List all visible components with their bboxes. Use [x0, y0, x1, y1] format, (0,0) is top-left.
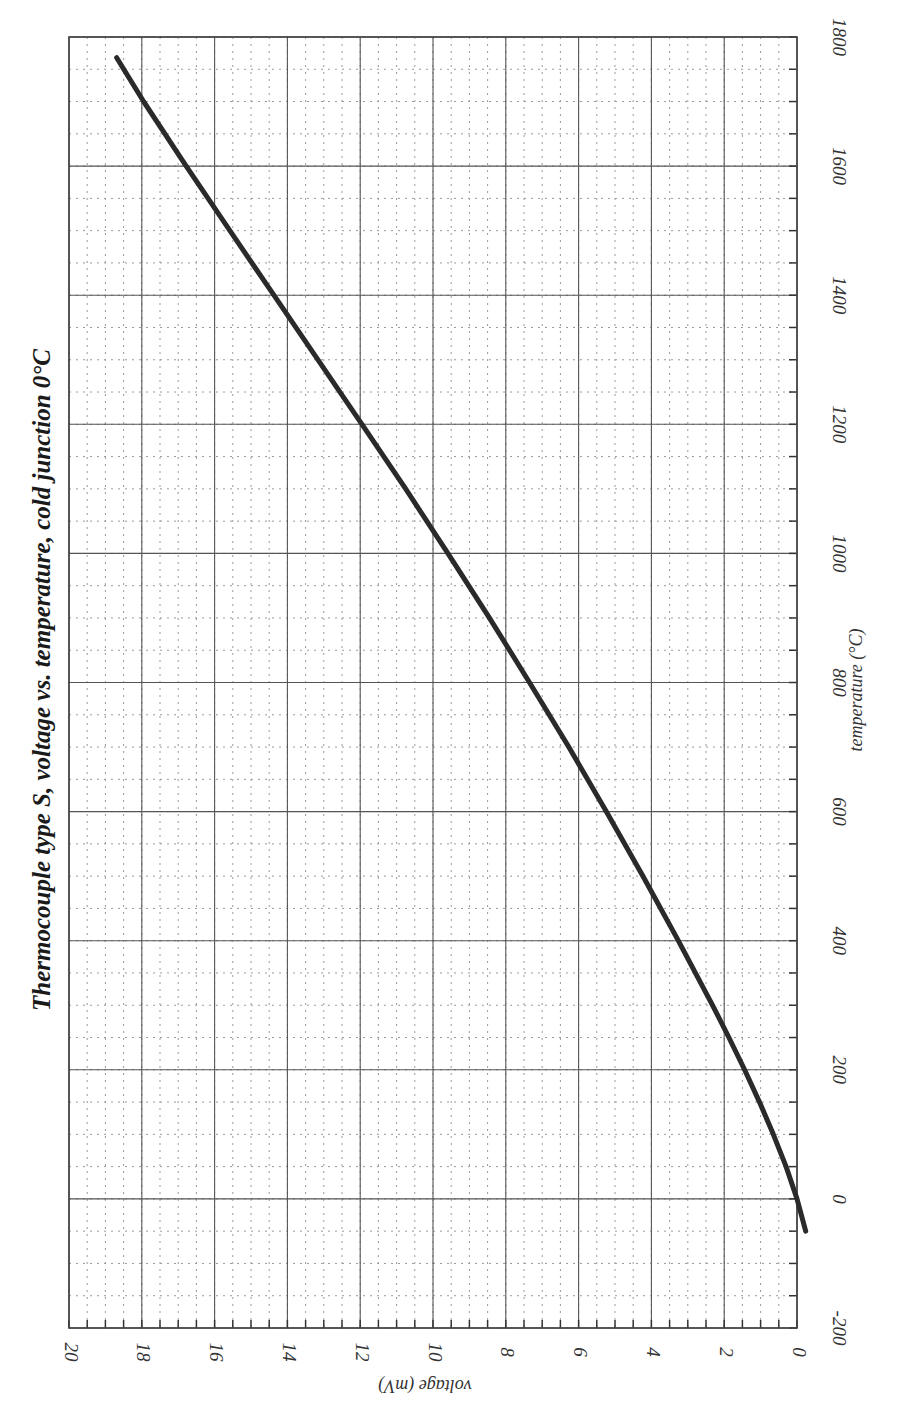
voltage-tick-labels: 02468101214161820: [61, 1343, 810, 1363]
temperature-tick-label: 400: [829, 926, 850, 955]
chart: -200020040060080010001200140016001800 02…: [0, 0, 897, 1405]
thermocouple-chart-svg: -200020040060080010001200140016001800 02…: [0, 0, 897, 1405]
voltage-tick-label: 14: [279, 1343, 300, 1363]
y-axis-label: voltage (mV): [378, 1375, 471, 1396]
data-series-line: [117, 58, 806, 1232]
voltage-tick-label: 2: [716, 1347, 737, 1357]
temperature-tick-label: 1600: [829, 147, 850, 186]
major-grid: [69, 37, 797, 1328]
voltage-tick-label: 16: [206, 1343, 227, 1363]
voltage-tick-label: 10: [425, 1343, 446, 1363]
chart-title: Thermocouple type S, voltage vs. tempera…: [28, 349, 55, 1011]
temperature-tick-label: 1800: [829, 18, 850, 57]
temperature-tick-label: 600: [829, 797, 850, 826]
x-axis-label: temperature (°C): [846, 628, 867, 751]
temperature-tick-label: -200: [829, 1311, 850, 1346]
temperature-tick-label: 200: [829, 1056, 850, 1085]
voltage-tick-label: 12: [352, 1343, 373, 1363]
voltage-tick-label: 4: [643, 1347, 664, 1357]
voltage-tick-label: 18: [133, 1343, 154, 1363]
voltage-tick-label: 6: [570, 1347, 591, 1357]
voltage-tick-label: 20: [61, 1343, 82, 1363]
temperature-tick-label: 1200: [829, 405, 850, 444]
temperature-tick-label: 1400: [829, 276, 850, 315]
temperature-tick-label: 1000: [829, 534, 850, 573]
temperature-tick-label: 0: [829, 1194, 850, 1204]
voltage-tick-label: 8: [497, 1347, 518, 1357]
voltage-tick-label: 0: [789, 1347, 810, 1357]
